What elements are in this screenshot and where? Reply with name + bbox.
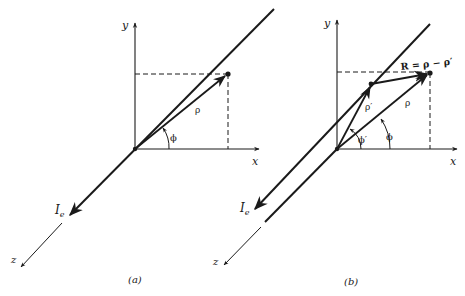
phi-label-a: ϕ bbox=[170, 132, 177, 143]
rho-vector-a bbox=[135, 76, 225, 149]
z-label-b: z bbox=[212, 256, 219, 267]
current-label-a: Ie bbox=[54, 203, 65, 219]
panel-a: y x z ρ ϕ Ie (a) bbox=[10, 9, 274, 285]
rho-vector-b bbox=[337, 75, 427, 149]
x-label-b: x bbox=[450, 155, 457, 168]
origin-a bbox=[133, 147, 137, 151]
y-label-b: y bbox=[323, 17, 331, 30]
y-label-a: y bbox=[121, 19, 129, 32]
z-axis-b bbox=[224, 227, 261, 265]
field-point-a bbox=[225, 71, 230, 76]
rho-prime-label-b: ρ′ bbox=[365, 102, 372, 112]
caption-a: (a) bbox=[128, 274, 142, 285]
current-line-b bbox=[255, 24, 430, 209]
z-label-a: z bbox=[10, 254, 17, 265]
figure-canvas: y x z ρ ϕ Ie (a) y x z bbox=[0, 0, 465, 296]
rho-label-a: ρ bbox=[195, 105, 200, 115]
x-label-a: x bbox=[252, 155, 259, 168]
z-axis-a bbox=[21, 223, 62, 267]
R-equation-label-b: R = ρ − ρ′ bbox=[400, 56, 454, 72]
phi-label-b: ϕ bbox=[386, 131, 393, 142]
caption-b: (b) bbox=[344, 276, 358, 287]
phi-prime-label-b: ϕ′ bbox=[358, 134, 368, 145]
current-line-a bbox=[70, 9, 274, 215]
source-point-b bbox=[369, 82, 374, 87]
rho-label-b: ρ bbox=[405, 98, 410, 108]
current-label-b: Ie bbox=[239, 201, 250, 217]
panel-b: y x z ρ ρ′ ϕ ϕ′ R = ρ − ρ′ Ie (b) bbox=[212, 17, 457, 287]
phi-arc-a bbox=[163, 128, 169, 149]
origin-b bbox=[335, 147, 339, 151]
field-point-b bbox=[427, 70, 432, 75]
